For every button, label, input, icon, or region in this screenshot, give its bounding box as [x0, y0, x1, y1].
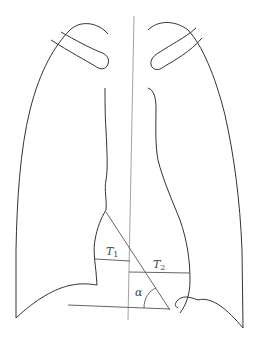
- right-clavicle: [151, 28, 202, 70]
- midline: [128, 16, 134, 320]
- alpha-arc: [144, 288, 156, 308]
- t2-line: [129, 272, 190, 273]
- alpha-label: α: [135, 286, 143, 299]
- chest-diagram: T1 T2 α: [0, 0, 256, 344]
- base-line: [68, 305, 170, 309]
- left-lung-base: [16, 284, 97, 318]
- right-lung-base: [175, 297, 243, 328]
- t1-line: [95, 259, 130, 261]
- t1-label: T1: [106, 245, 118, 259]
- right-heart-border: [148, 88, 190, 313]
- left-lung-outer: [16, 24, 108, 318]
- t2-label: T2: [153, 258, 165, 272]
- left-clavicle: [51, 32, 109, 69]
